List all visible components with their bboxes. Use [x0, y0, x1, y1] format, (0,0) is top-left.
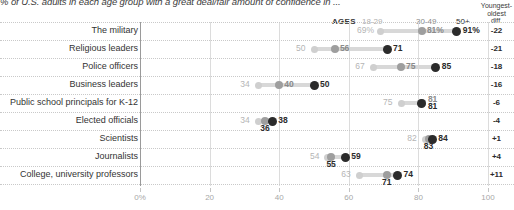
x-tick-label-80: 80	[414, 193, 423, 202]
dot-50-plus	[310, 81, 319, 90]
diff-header-line-1: Youngest-	[479, 2, 514, 10]
x-tick-label-100: 100	[481, 193, 494, 202]
value-label-mid: 40	[284, 79, 293, 89]
row-label: Business leaders	[69, 79, 138, 89]
youngest-oldest-diff: -22	[479, 26, 514, 35]
row-label: Journalists	[95, 151, 138, 161]
dot-30-49	[275, 81, 283, 89]
x-tick-label-40: 40	[275, 193, 284, 202]
dot-18-29	[377, 28, 384, 35]
x-tick-label-0: 0%	[134, 193, 146, 202]
chart-row: Public school principals for K-12758181-…	[0, 94, 514, 112]
chart-row: Business leaders345040-16	[0, 76, 514, 94]
value-label-high: 84	[438, 133, 447, 143]
row-label: Public school principals for K-12	[10, 97, 138, 107]
chart-row: Elected officials343836-4	[0, 112, 514, 130]
x-tick-label-60: 60	[344, 193, 353, 202]
row-label: The military	[91, 25, 138, 35]
value-label-low: 69%	[357, 25, 374, 35]
value-label-high: 59	[351, 151, 360, 161]
row-separator	[0, 184, 514, 185]
range-connector	[314, 47, 387, 51]
row-label: College, university professors	[20, 169, 138, 179]
dot-18-29	[356, 172, 363, 179]
value-label-low: 82	[407, 133, 416, 143]
value-label-mid: 71	[382, 177, 391, 187]
dot-50-plus	[452, 27, 461, 36]
value-label-low: 54	[310, 151, 319, 161]
dot-30-49	[331, 45, 339, 53]
value-label-low: 67	[355, 61, 364, 71]
dot-30-49	[418, 27, 426, 35]
x-axis: 0%20406080100	[0, 188, 514, 210]
dot-50-plus	[431, 63, 440, 72]
chart-row: Religious leaders507156-21	[0, 40, 514, 58]
dot-30-49	[397, 63, 405, 71]
youngest-oldest-diff: +4	[479, 152, 514, 161]
dot-50-plus	[417, 99, 426, 108]
dot-50-plus	[341, 153, 350, 162]
value-label-high: 71	[393, 43, 402, 53]
chart-row: Scientists828483+1	[0, 130, 514, 148]
chart-row: Police officers678575-18	[0, 58, 514, 76]
value-label-mid: 81%	[427, 25, 444, 35]
diff-header-line-2: oldest	[479, 10, 514, 18]
dot-50-plus	[393, 171, 402, 180]
value-label-high: 85	[442, 61, 451, 71]
dot-plot-chart: % of U.S. adults in each age group with …	[0, 0, 514, 210]
x-tick-60	[349, 188, 350, 192]
chart-row: College, university professors637471+11	[0, 166, 514, 184]
x-tick-20	[210, 188, 211, 192]
value-label-high: 50	[320, 79, 329, 89]
dot-18-29	[311, 46, 318, 53]
value-label-mid: 75	[406, 61, 415, 71]
value-label-high: 91%	[463, 25, 480, 35]
x-tick-80	[418, 188, 419, 192]
row-label: Scientists	[99, 133, 138, 143]
dot-18-29	[398, 100, 405, 107]
youngest-oldest-diff: +11	[479, 170, 514, 179]
row-label: Police officers	[82, 61, 138, 71]
value-label-mid: 81	[428, 94, 437, 104]
x-tick-0	[140, 188, 141, 192]
dot-18-29	[255, 82, 262, 89]
row-label: Elected officials	[76, 115, 138, 125]
value-label-low: 63	[341, 169, 350, 179]
youngest-oldest-diff: -21	[479, 44, 514, 53]
value-label-mid: 56	[340, 43, 349, 53]
value-label-high: 74	[404, 169, 413, 179]
chart-row: The military69%91%81%-22	[0, 22, 514, 40]
value-label-low: 75	[383, 97, 392, 107]
dot-18-29	[370, 64, 377, 71]
value-label-high: 38	[278, 115, 287, 125]
value-label-low: 50	[296, 43, 305, 53]
youngest-oldest-diff: +1	[479, 134, 514, 143]
x-tick-label-20: 20	[205, 193, 214, 202]
chart-subtitle: % of U.S. adults in each age group with …	[0, 0, 430, 7]
row-label: Religious leaders	[69, 43, 138, 53]
youngest-oldest-diff: -4	[479, 116, 514, 125]
x-tick-40	[279, 188, 280, 192]
value-label-low: 34	[240, 115, 249, 125]
value-label-low: 34	[240, 79, 249, 89]
youngest-oldest-diff: -18	[479, 62, 514, 71]
chart-row: Journalists545955+4	[0, 148, 514, 166]
youngest-oldest-diff: -16	[479, 80, 514, 89]
youngest-oldest-diff: -6	[479, 98, 514, 107]
x-tick-100	[488, 188, 489, 192]
dot-50-plus	[383, 45, 392, 54]
